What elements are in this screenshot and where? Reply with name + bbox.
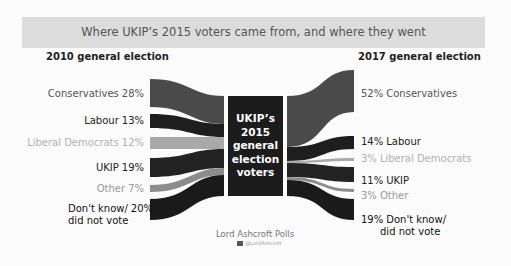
label-name: Other: [97, 183, 125, 194]
source-credit: Lord Ashcroft Polls: [216, 229, 294, 239]
left-label-conservatives: Conservatives28%: [48, 88, 147, 100]
label-pct: 19%: [122, 162, 144, 173]
label-pct: 52%: [361, 88, 383, 99]
right-label-ukip: 11%UKIP: [358, 175, 409, 187]
label-name: Conservatives: [48, 88, 119, 99]
center-node-box: UKIP’s 2015 general election voters: [228, 96, 283, 196]
center-node-label: UKIP’s 2015 general election voters: [231, 112, 281, 180]
label-pct: 19%: [361, 214, 383, 225]
label-name-line2: did not vote: [68, 215, 128, 226]
label-name: Labour: [386, 136, 421, 147]
label-pct: 28%: [122, 88, 144, 99]
label-name: UKIP: [96, 162, 119, 173]
label-pct: 7%: [128, 183, 144, 194]
right-label-conservatives: 52%Conservatives: [358, 88, 457, 100]
label-name: Labour: [84, 115, 119, 126]
label-name: Don't know/: [386, 214, 446, 225]
right-label-other: 3%Other: [358, 190, 408, 202]
handle-text: @LordAshcroft: [245, 240, 281, 246]
left-label-ukip: UKIP19%: [96, 162, 147, 174]
label-name: UKIP: [386, 175, 409, 186]
label-pct: 3%: [361, 190, 377, 201]
left-label-dontknow: Don't know/20% did not vote: [68, 203, 156, 227]
label-name: Conservatives: [386, 88, 457, 99]
label-pct: 12%: [122, 137, 144, 148]
flow-right-dontknow: [287, 180, 354, 220]
left-label-labour: Labour13%: [84, 115, 147, 127]
left-label-libdem: Liberal Democrats12%: [27, 137, 147, 149]
label-pct: 20%: [131, 203, 153, 214]
label-name: Other: [380, 190, 408, 201]
right-label-labour: 14%Labour: [358, 136, 421, 148]
label-pct: 13%: [122, 115, 144, 126]
label-name-line2: did not vote: [380, 226, 440, 237]
twitter-icon: [237, 241, 243, 246]
label-pct: 3%: [361, 153, 377, 164]
left-label-other: Other7%: [97, 183, 147, 195]
label-pct: 11%: [361, 175, 383, 186]
label-name: Liberal Democrats: [380, 153, 472, 164]
label-pct: 14%: [361, 136, 383, 147]
label-name: Don't know/: [68, 203, 128, 214]
label-name: Liberal Democrats: [27, 137, 119, 148]
flow-right-conservatives: [287, 70, 354, 147]
twitter-handle: @LordAshcroft: [237, 240, 281, 246]
right-label-dontknow: 19%Don't know/ did not vote: [358, 214, 446, 238]
right-label-libdem: 3%Liberal Democrats: [358, 153, 472, 165]
flow-left-libdem: [150, 137, 224, 149]
